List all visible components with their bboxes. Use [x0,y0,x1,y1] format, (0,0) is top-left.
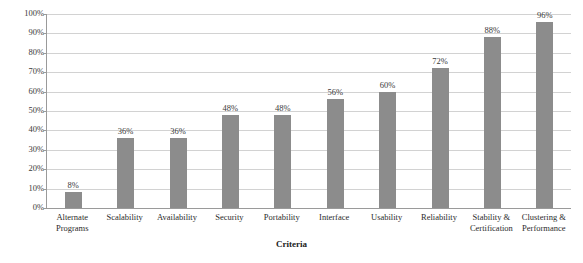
bar-value-label: 96% [523,11,567,20]
x-axis-category-label: Portability [254,212,310,223]
bar [484,37,501,208]
bar [379,92,396,208]
bar-value-label: 48% [208,104,252,113]
bar-value-label: 60% [366,81,410,90]
bar-value-label: 88% [470,26,514,35]
bar [432,68,449,208]
bar-value-label: 36% [156,127,200,136]
bar-value-label: 36% [104,127,148,136]
x-axis-category-label: Interface [306,212,362,223]
x-axis-category-label: Clustering & Performance [516,212,572,234]
x-axis-category-label: Usability [359,212,415,223]
y-axis-tick-label: 0% [8,203,44,212]
x-axis-title: Criteria [0,239,583,249]
bar [170,138,187,208]
y-axis-tick [43,189,47,190]
y-axis-tick-label: 10% [8,184,44,193]
plot-area: 8%36%36%48%48%56%60%72%88%96% [46,14,570,208]
y-axis-tick [43,150,47,151]
y-axis-tick-label: 90% [8,28,44,37]
y-axis-tick-label: 30% [8,145,44,154]
bar-value-label: 72% [418,57,462,66]
y-axis-tick-label: 20% [8,164,44,173]
bar [536,22,553,208]
y-axis-tick [43,14,47,15]
y-axis-tick [43,72,47,73]
x-axis-category-label: Security [201,212,257,223]
x-axis-category-label: Scalability [97,212,153,223]
y-axis-tick [43,130,47,131]
bar-value-label: 48% [261,104,305,113]
bar-value-label: 8% [51,181,95,190]
y-axis-tick-label: 60% [8,87,44,96]
bar-chart: 0%10%20%30%40%50%60%70%80%90%100% 8%36%3… [0,0,583,263]
bar [327,99,344,208]
x-axis-category-label: Stability & Certification [463,212,519,234]
y-axis-tick [43,169,47,170]
bar [117,138,134,208]
y-axis-tick-labels: 0%10%20%30%40%50%60%70%80%90%100% [6,0,44,263]
y-axis-tick [43,111,47,112]
y-axis-tick-label: 40% [8,125,44,134]
bar [222,115,239,208]
y-axis-tick [43,92,47,93]
y-axis-tick [43,53,47,54]
y-axis-tick [43,208,47,209]
x-axis-category-label: Alternate Programs [44,212,100,234]
bar [65,192,82,208]
y-axis-tick-label: 50% [8,106,44,115]
y-axis-tick-label: 80% [8,48,44,57]
axis-baseline [47,208,571,209]
x-axis-category-label: Reliability [411,212,467,223]
bar [274,115,291,208]
gridline [47,14,571,15]
bar-value-label: 56% [313,88,357,97]
y-axis-tick-label: 70% [8,67,44,76]
y-axis-tick-label: 100% [8,9,44,18]
y-axis-tick [43,33,47,34]
x-axis-category-label: Availability [149,212,205,223]
